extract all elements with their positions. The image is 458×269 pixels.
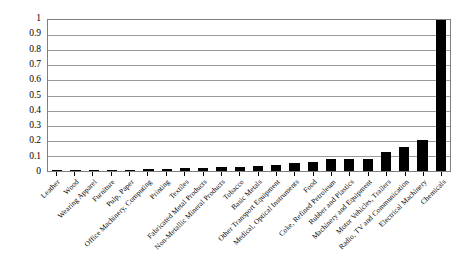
plot-area [47,19,451,172]
bar-slot [194,20,212,171]
bar[interactable] [399,147,409,171]
bar[interactable] [216,167,226,171]
bar-slot [158,20,176,171]
bar[interactable] [417,140,427,171]
bar[interactable] [308,162,318,172]
bar-slot [359,20,377,171]
bar[interactable] [436,20,446,171]
bar-slot [285,20,303,171]
y-tick-label: 0.5 [29,91,41,101]
bar[interactable] [381,152,391,171]
y-tick-label: 0 [36,167,41,177]
y-tick-label: 0.1 [29,152,41,162]
bar[interactable] [363,159,373,171]
bar-slot [103,20,121,171]
bar-slot [432,20,450,171]
bar[interactable] [143,169,153,171]
bar-chart: 10.90.80.70.60.50.40.30.20.10 LeatherWoo… [0,0,458,269]
bar-slot [212,20,230,171]
bar[interactable] [344,159,354,171]
bar-slot [249,20,267,171]
y-tick-label: 0.3 [29,121,41,131]
y-tick-label: 0.9 [29,30,41,40]
y-tick-label: 0.2 [29,137,41,147]
bar-slot [395,20,413,171]
bar[interactable] [180,168,190,171]
bar[interactable] [89,170,99,171]
bar-slot [121,20,139,171]
y-tick-label: 0.7 [29,60,41,70]
x-label-slot: Chemicals [433,176,451,269]
bar-slot [48,20,66,171]
bar-slot [66,20,84,171]
x-axis-tick-label: Leather [40,178,62,200]
x-axis-labels: LeatherWoodWearing ApparelFurniturePulp,… [47,176,451,269]
bar-slot [139,20,157,171]
bar-slot [231,20,249,171]
bar[interactable] [235,167,245,171]
bar[interactable] [107,170,117,171]
y-tick-label: 0.4 [29,106,41,116]
bar-slot [340,20,358,171]
bar-slot [377,20,395,171]
y-tick-label: 1 [36,14,41,24]
bar[interactable] [52,170,62,171]
bar[interactable] [70,170,80,171]
bar-slot [176,20,194,171]
bar[interactable] [271,165,281,171]
bar-slot [304,20,322,171]
bar[interactable] [162,169,172,171]
bar[interactable] [253,166,263,171]
bars-container [48,20,450,171]
bar[interactable] [289,163,299,171]
bar[interactable] [198,168,208,171]
bar[interactable] [125,170,135,172]
bar-slot [413,20,431,171]
bar-slot [267,20,285,171]
y-tick-label: 0.8 [29,45,41,55]
y-tick-label: 0.6 [29,75,41,85]
y-axis: 10.90.80.70.60.50.40.30.20.10 [0,19,41,172]
bar[interactable] [326,159,336,171]
bar-slot [322,20,340,171]
bar-slot [85,20,103,171]
